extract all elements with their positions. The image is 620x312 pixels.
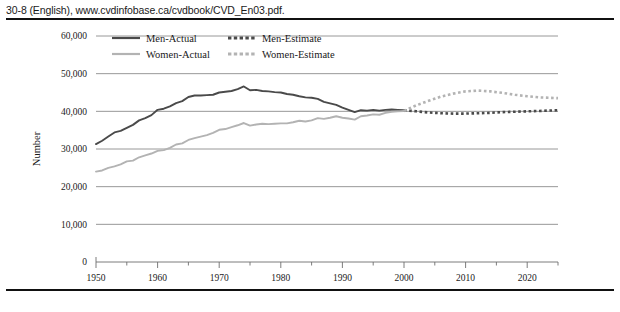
chart-canvas: 010,00020,00030,00040,00050,00060,000Num… [0, 22, 620, 287]
y-axis-tick-label: 40,000 [61, 107, 87, 117]
x-axis-tick-label: 2020 [518, 273, 537, 283]
legend-label-men-estimate: Men-Estimate [262, 33, 322, 44]
document-page: 30-8 (English), www.cvdinfobase.ca/cvdbo… [0, 0, 620, 312]
x-axis-tick-label: 1990 [333, 273, 352, 283]
legend-label-men-actual: Men-Actual [146, 33, 197, 44]
header-divider-rule [6, 18, 614, 20]
y-axis-tick-label: 50,000 [61, 69, 87, 79]
x-axis-tick-label: 1970 [210, 273, 229, 283]
y-axis-tick-label: 0 [82, 257, 87, 267]
footer-divider-rule [6, 289, 614, 291]
y-axis-tick-label: 10,000 [61, 220, 87, 230]
page-source-line: 30-8 (English), www.cvdinfobase.ca/cvdbo… [6, 4, 285, 16]
series-line-men-estimate [404, 110, 558, 113]
line-chart: 010,00020,00030,00040,00050,00060,000Num… [0, 22, 620, 287]
x-axis-tick-label: 2000 [395, 273, 414, 283]
series-line-women-estimate [404, 91, 558, 111]
y-axis-title: Number [31, 131, 42, 166]
x-axis-tick-label: 1950 [87, 273, 106, 283]
legend-label-women-actual: Women-Actual [146, 49, 210, 60]
x-axis-tick-label: 1960 [148, 273, 167, 283]
y-axis-tick-label: 60,000 [61, 31, 87, 41]
y-axis-tick-label: 20,000 [61, 182, 87, 192]
series-line-men-actual [96, 86, 404, 144]
y-axis-tick-label: 30,000 [61, 144, 87, 154]
x-axis-tick-label: 1980 [271, 273, 290, 283]
x-axis-tick-label: 2010 [456, 273, 475, 283]
legend-label-women-estimate: Women-Estimate [262, 49, 335, 60]
